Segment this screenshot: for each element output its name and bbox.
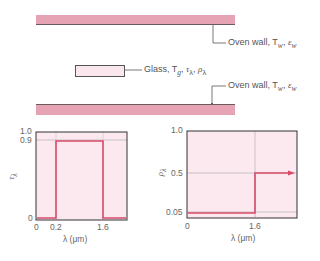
right-ytick-0.5: 0.5 (171, 168, 183, 178)
right-ytick-1.0: 1.0 (171, 125, 183, 135)
right-ylabel: ρλ (155, 169, 168, 177)
right-xtick-0: 0 (185, 221, 190, 231)
reflectivity-chart (0, 0, 320, 261)
right-ytick-0.05: 0.05 (166, 207, 183, 217)
right-xlabel: λ (μm) (231, 233, 255, 243)
right-xtick-1.6: 1.6 (249, 221, 261, 231)
